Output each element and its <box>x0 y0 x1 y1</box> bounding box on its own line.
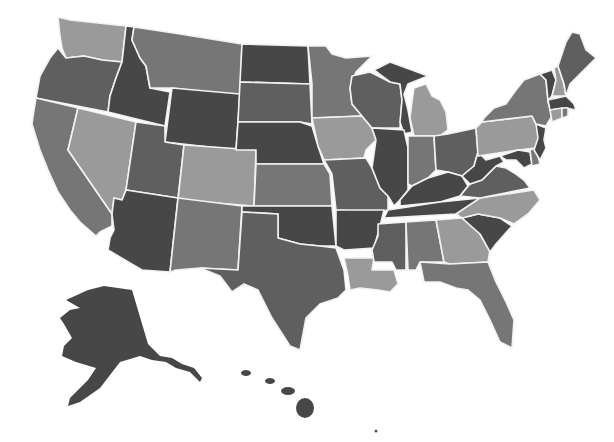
state-louisiana[interactable] <box>344 258 398 292</box>
state-new-york[interactable] <box>482 74 552 126</box>
state-maine[interactable] <box>558 32 596 96</box>
state-washington[interactable] <box>58 17 126 62</box>
state-rhode-island[interactable] <box>562 108 568 118</box>
hawaii-island-oahu <box>265 378 275 384</box>
map-dot-marker <box>375 430 378 433</box>
state-wyoming[interactable] <box>165 88 240 150</box>
hawaii-island-maui <box>281 387 295 395</box>
state-alaska[interactable] <box>60 286 202 406</box>
us-choropleth-map <box>0 0 614 442</box>
state-north-dakota[interactable] <box>240 44 310 84</box>
state-connecticut[interactable] <box>550 108 562 122</box>
hawaii-island-kauai <box>241 370 251 376</box>
state-new-mexico[interactable] <box>170 198 242 272</box>
hawaii-island-big <box>296 398 314 418</box>
state-arizona[interactable] <box>108 190 178 272</box>
state-south-dakota[interactable] <box>238 82 312 124</box>
state-kansas[interactable] <box>254 164 332 206</box>
state-michigan[interactable] <box>410 84 448 136</box>
state-florida[interactable] <box>420 262 514 348</box>
state-hawaii[interactable] <box>241 370 314 418</box>
state-iowa[interactable] <box>312 116 376 160</box>
state-colorado[interactable] <box>178 145 256 206</box>
